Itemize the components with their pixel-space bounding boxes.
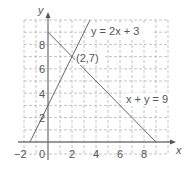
- y-tick-label: 6: [39, 63, 45, 75]
- x-tick-label: 2: [69, 148, 75, 160]
- line2-label: x + y = 9: [126, 93, 168, 105]
- x-tick-label: 6: [117, 148, 123, 160]
- x-tick-label: 4: [93, 148, 99, 160]
- x-tick-label: 0: [39, 148, 45, 160]
- line-x-plus-y-equals-9: [48, 32, 156, 142]
- y-tick-label: 8: [39, 39, 45, 51]
- y-axis-label: y: [37, 4, 45, 16]
- y-axis-arrow-icon: [46, 12, 51, 18]
- graph: y x −2 0 2 4 6 8 2 4 6 8 y = 2x + 3 (2,7…: [0, 0, 189, 169]
- x-axis-label: x: [175, 144, 182, 156]
- line1-label: y = 2x + 3: [91, 25, 139, 37]
- x-tick-label: −2: [14, 148, 27, 160]
- intersection-label: (2,7): [76, 52, 99, 64]
- y-tick-label: 2: [39, 112, 45, 124]
- x-tick-label: 8: [141, 148, 147, 160]
- y-tick-label: 4: [39, 88, 45, 100]
- grid: [24, 20, 168, 154]
